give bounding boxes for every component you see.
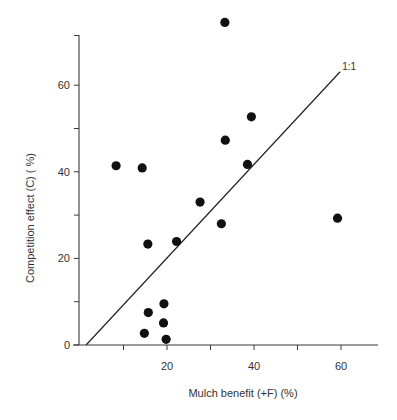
x-axis-tick-labels: 204060 [161,360,347,372]
axes [73,35,378,345]
data-point [144,308,153,317]
data-points [112,18,343,344]
y-tick-label: 0 [64,339,70,351]
y-tick-label: 40 [58,166,70,178]
data-point [159,318,168,327]
x-axis-ticks [124,345,342,350]
data-point [172,237,181,246]
scatter-chart: 204060 0204060 1:1 Mulch benefit (+F) (%… [0,0,397,420]
y-axis-label: Competition effect (C) ( %) [24,153,36,283]
y-tick-label: 20 [58,252,70,264]
data-point [159,299,168,308]
data-point [220,18,229,27]
x-axis-label: Mulch benefit (+F) (%) [188,387,297,399]
data-point [221,136,230,145]
data-point [143,240,152,249]
data-point [333,214,342,223]
one-to-one-reference-line [86,72,340,345]
data-point [112,161,121,170]
data-point [247,112,256,121]
y-tick-label: 60 [58,79,70,91]
data-point [195,198,204,207]
data-point [217,219,226,228]
x-tick-label: 40 [248,360,260,372]
x-tick-label: 60 [335,360,347,372]
data-point [140,329,149,338]
data-point [138,163,147,172]
data-point [162,335,171,344]
y-axis-ticks [74,85,79,345]
y-axis-tick-labels: 0204060 [58,79,70,351]
data-point [243,160,252,169]
reference-line-label: 1:1 [342,61,356,72]
x-tick-label: 20 [161,360,173,372]
